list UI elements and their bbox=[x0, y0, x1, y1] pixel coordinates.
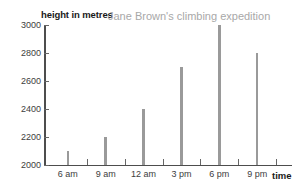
bar bbox=[142, 109, 145, 165]
y-axis-tick-label: 2200 bbox=[1, 132, 41, 142]
bar bbox=[67, 151, 70, 165]
y-axis-tick-label-wrap: 2000 bbox=[0, 160, 41, 170]
y-axis-tick-label: 3000 bbox=[1, 20, 41, 30]
y-axis-tick-label-wrap: 2400 bbox=[0, 104, 41, 114]
bar-series bbox=[44, 25, 292, 165]
y-axis-tick-label-wrap: 3000 bbox=[0, 20, 41, 30]
y-axis-title: height in metres bbox=[41, 9, 113, 20]
chart-title: Jane Brown's climbing expedition bbox=[108, 10, 270, 22]
x-axis-tick-label: 12 am bbox=[131, 169, 156, 179]
y-axis-tick-label: 2400 bbox=[1, 104, 41, 114]
x-axis-tick-label: 3 pm bbox=[171, 169, 191, 179]
x-axis-tick-label: 9 pm bbox=[247, 169, 267, 179]
bar bbox=[256, 53, 259, 165]
bar bbox=[180, 67, 183, 165]
x-axis-title: time bbox=[272, 170, 292, 181]
x-axis-tick-label: 9 am bbox=[96, 169, 116, 179]
bar bbox=[104, 137, 107, 165]
y-axis-tick-label-wrap: 2800 bbox=[0, 48, 41, 58]
bar bbox=[218, 25, 221, 165]
x-axis-tick-label: 6 am bbox=[58, 169, 78, 179]
y-axis-tick-label-wrap: 2200 bbox=[0, 132, 41, 142]
climbing-expedition-bar-chart: height in metres Jane Brown's climbing e… bbox=[0, 0, 303, 189]
y-axis-tick-label: 2000 bbox=[1, 160, 41, 170]
y-axis-tick-label: 2800 bbox=[1, 48, 41, 58]
y-axis-tick-label: 2600 bbox=[1, 76, 41, 86]
x-axis-tick-label: 6 pm bbox=[209, 169, 229, 179]
y-axis-tick-label-wrap: 2600 bbox=[0, 76, 41, 86]
